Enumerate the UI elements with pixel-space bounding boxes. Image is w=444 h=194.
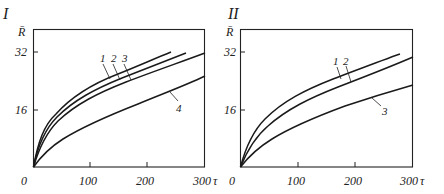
curve-label: 4 [176,102,182,114]
curve-4 [34,76,206,167]
x-tick-label: 100 [79,174,97,188]
x-tick-label: 200 [344,174,362,188]
y-axis-label: R̄ [17,25,26,39]
x-axis-label: τ [213,174,218,188]
panel-1: I R̄ 32 16 0 100 200 300 τ 1 2 3 4 [2,5,218,188]
x-tick-label: 300 [399,174,418,188]
chart-figure: I R̄ 32 16 0 100 200 300 τ 1 2 3 4 II R̄ [0,0,444,194]
curve-label: 1 [100,52,106,64]
leader-line [170,92,178,101]
x-tick-label: 0 [21,174,27,188]
leader-line [113,64,120,80]
x-axis-label: τ [420,174,425,188]
x-tick-label: 0 [229,174,235,188]
plot-frame [34,30,205,168]
x-tick-label: 300 [192,174,211,188]
panel-2: II R̄ 32 16 0 100 200 300 τ 1 2 3 [223,5,425,188]
leader-line [103,64,110,79]
curve-label: 3 [121,52,128,64]
y-tick-label: 16 [15,103,27,117]
curve-3 [241,85,414,167]
curve-2 [34,53,187,167]
plot-frame [241,30,413,168]
curve-label: 2 [111,52,117,64]
y-axis-label: R̄ [225,25,234,39]
y-tick-label: 32 [14,45,27,59]
panel-label: I [2,5,9,22]
panel-label: II [227,5,239,22]
x-tick-label: 200 [136,174,154,188]
curve-1 [34,52,172,167]
curve-label: 1 [333,55,339,67]
curve-1 [241,54,401,167]
curve-label: 2 [343,55,349,67]
y-tick-label: 16 [224,103,236,117]
y-tick-label: 32 [223,45,236,59]
leader-line [372,98,381,106]
x-tick-label: 100 [287,174,305,188]
curve-label: 3 [381,105,388,117]
